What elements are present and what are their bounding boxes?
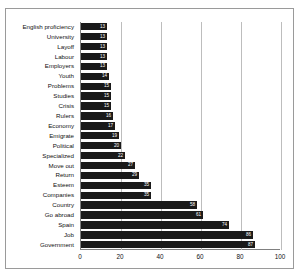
bar-value-label: 35 xyxy=(144,183,149,188)
bar: 29 xyxy=(81,172,139,179)
bar: 13 xyxy=(81,63,107,70)
bar-value-label: 13 xyxy=(100,44,105,49)
bar-row: 14 xyxy=(81,72,281,82)
bar: 13 xyxy=(81,23,107,30)
bar: 16 xyxy=(81,112,113,119)
bar-row: 13 xyxy=(81,42,281,52)
bar-row: 22 xyxy=(81,151,281,161)
category-label: Studies xyxy=(0,91,77,101)
category-label: Crisis xyxy=(0,101,77,111)
bar-value-label: 29 xyxy=(132,173,137,178)
category-label: Rulers xyxy=(0,111,77,121)
bar-row: 58 xyxy=(81,200,281,210)
bar-value-label: 19 xyxy=(112,133,117,138)
category-axis-labels: English proficiencyUniversityLayoffLabou… xyxy=(0,22,77,250)
bar-value-label: 61 xyxy=(196,213,201,218)
bar: 13 xyxy=(81,43,107,50)
bar-value-label: 13 xyxy=(100,54,105,59)
category-label: Government xyxy=(0,240,77,250)
category-label: Esteem xyxy=(0,181,77,191)
category-label: Emigrate xyxy=(0,131,77,141)
bar: 15 xyxy=(81,92,111,99)
bar: 13 xyxy=(81,33,107,40)
bar-value-label: 86 xyxy=(246,233,251,238)
category-label: Job xyxy=(0,230,77,240)
bar: 17 xyxy=(81,122,115,129)
x-tick-label: 40 xyxy=(156,253,163,260)
x-tick-label: 60 xyxy=(196,253,203,260)
bar-row: 35 xyxy=(81,181,281,191)
bar: 35 xyxy=(81,182,151,189)
chart-figure: English proficiencyUniversityLayoffLabou… xyxy=(0,0,301,275)
x-tick-label: 80 xyxy=(236,253,243,260)
x-tick-label: 0 xyxy=(78,253,82,260)
gridline xyxy=(281,22,282,250)
category-label: Move out xyxy=(0,161,77,171)
bar-row: 15 xyxy=(81,91,281,101)
bar-value-label: 14 xyxy=(102,74,107,79)
bar-row: 86 xyxy=(81,230,281,240)
bar-row: 16 xyxy=(81,111,281,121)
bar-rows: 1313131313141515151617192022272935355861… xyxy=(81,22,281,250)
bar-value-label: 17 xyxy=(108,124,113,129)
category-label: Political xyxy=(0,141,77,151)
bar: 13 xyxy=(81,53,107,60)
bar: 20 xyxy=(81,142,121,149)
bar: 15 xyxy=(81,83,111,90)
bar-row: 35 xyxy=(81,190,281,200)
bar: 27 xyxy=(81,162,135,169)
bar-value-label: 13 xyxy=(100,24,105,29)
bar-row: 19 xyxy=(81,131,281,141)
bar-value-label: 16 xyxy=(106,114,111,119)
category-label: Country xyxy=(0,200,77,210)
category-label: Youth xyxy=(0,72,77,82)
bar-value-label: 35 xyxy=(144,193,149,198)
category-label: English proficiency xyxy=(0,22,77,32)
bar-row: 17 xyxy=(81,121,281,131)
bar-row: 15 xyxy=(81,101,281,111)
bar: 86 xyxy=(81,231,253,238)
bar-value-label: 15 xyxy=(104,84,109,89)
category-label: Return xyxy=(0,171,77,181)
bar: 74 xyxy=(81,221,229,228)
value-axis-labels: 020406080100 xyxy=(80,253,280,267)
bar: 14 xyxy=(81,73,109,80)
category-label: Companies xyxy=(0,190,77,200)
bar: 61 xyxy=(81,211,203,218)
bar: 35 xyxy=(81,192,151,199)
bar: 58 xyxy=(81,201,197,208)
bar-value-label: 20 xyxy=(114,143,119,148)
bar-value-label: 74 xyxy=(222,223,227,228)
category-label: Spain xyxy=(0,220,77,230)
bar-value-label: 13 xyxy=(100,34,105,39)
bar: 87 xyxy=(81,241,255,248)
bar-row: 13 xyxy=(81,32,281,42)
bar-value-label: 22 xyxy=(118,153,123,158)
bar-row: 27 xyxy=(81,161,281,171)
bar-row: 13 xyxy=(81,62,281,72)
bar-value-label: 58 xyxy=(190,203,195,208)
category-label: Problems xyxy=(0,81,77,91)
bar-row: 29 xyxy=(81,171,281,181)
bar-value-label: 15 xyxy=(104,104,109,109)
bar-row: 74 xyxy=(81,220,281,230)
bar-value-label: 15 xyxy=(104,94,109,99)
x-tick-label: 20 xyxy=(116,253,123,260)
bar: 15 xyxy=(81,102,111,109)
bar-row: 13 xyxy=(81,22,281,32)
plot-area: 1313131313141515151617192022272935355861… xyxy=(80,22,280,250)
bar: 22 xyxy=(81,152,125,159)
bar-row: 87 xyxy=(81,240,281,250)
bar: 19 xyxy=(81,132,119,139)
bar-row: 13 xyxy=(81,52,281,62)
bar-value-label: 13 xyxy=(100,64,105,69)
category-label: Employers xyxy=(0,62,77,72)
bar-value-label: 27 xyxy=(128,163,133,168)
category-label: Economy xyxy=(0,121,77,131)
category-label: Labour xyxy=(0,52,77,62)
bar-value-label: 87 xyxy=(248,242,253,247)
category-label: Specialized xyxy=(0,151,77,161)
category-label: Go abroad xyxy=(0,210,77,220)
bar-row: 15 xyxy=(81,81,281,91)
category-label: University xyxy=(0,32,77,42)
